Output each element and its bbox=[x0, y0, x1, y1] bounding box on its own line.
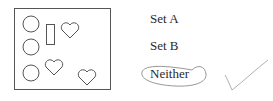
circle-shape bbox=[23, 16, 39, 32]
option-set-b[interactable]: Set B bbox=[150, 38, 179, 53]
circle-shape bbox=[23, 39, 39, 55]
shapes-figure bbox=[0, 0, 140, 101]
heart-shape bbox=[45, 60, 62, 75]
heart-shape bbox=[61, 23, 78, 38]
option-set-a[interactable]: Set A bbox=[150, 11, 179, 26]
figure-frame bbox=[15, 9, 111, 90]
option-neither[interactable]: Neither bbox=[150, 66, 189, 81]
checkmark-icon bbox=[225, 60, 268, 90]
rectangle-shape bbox=[47, 25, 55, 45]
heart-shape bbox=[78, 70, 95, 85]
circle-shape bbox=[23, 65, 39, 81]
